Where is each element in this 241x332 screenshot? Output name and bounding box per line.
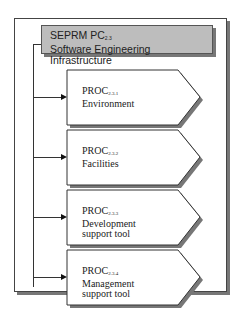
process-name-line: Environment [82,98,134,109]
header-box: SEPRM PC2.3 Software Engineering Infrast… [41,25,213,54]
header-title: SEPRM PC2.3 [50,29,112,41]
process-label: PROC2.3.1Environment [82,86,134,109]
process-label: PROC2.3.4Managementsupport tool [82,266,134,299]
connector-vertical-line [33,44,34,287]
arrow-to-proc-1 [34,97,64,98]
process-id: PROC2.3.1 [82,85,118,96]
process-box: PROC2.3.1Environment [67,70,203,125]
process-box: PROC2.3.2Facilities [67,130,203,185]
process-subscript: 2.3.3 [108,211,118,216]
arrow-to-proc-2 [34,157,64,158]
process-label: PROC2.3.3Developmentsupport tool [82,206,136,239]
process-box: PROC2.3.3Developmentsupport tool [67,190,203,245]
process-name-line: support tool [82,288,130,299]
process-subscript: 2.3.1 [108,91,118,96]
process-label: PROC2.3.2Facilities [82,146,119,169]
arrow-to-proc-4 [34,277,64,278]
arrow-to-proc-3 [34,217,64,218]
header-subscript: 2.3 [105,35,112,41]
process-box: PROC2.3.4Managementsupport tool [67,250,203,305]
process-name-line: support tool [82,228,130,239]
process-name-line: Facilities [82,158,119,169]
process-subscript: 2.3.2 [108,151,118,156]
process-id: PROC2.3.3 [82,205,118,216]
connector-header-line [33,44,41,45]
process-id: PROC2.3.4 [82,265,118,276]
process-id: PROC2.3.2 [82,145,118,156]
process-subscript: 2.3.4 [108,271,118,276]
